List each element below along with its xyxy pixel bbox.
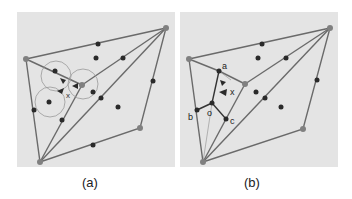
panel-a-marker-x: x [66, 91, 70, 100]
label-a: a [222, 61, 227, 71]
panel-a-background [17, 12, 175, 167]
caption-a: (a) [82, 175, 98, 190]
panel-b: a x b o c [180, 12, 338, 167]
panel-a: x [17, 12, 175, 167]
label-o: o [207, 108, 212, 118]
label-x: x [230, 87, 235, 97]
caption-b: (b) [244, 175, 260, 190]
figure-canvas: x [0, 0, 352, 199]
label-b: b [188, 112, 193, 122]
label-c: c [230, 116, 235, 126]
